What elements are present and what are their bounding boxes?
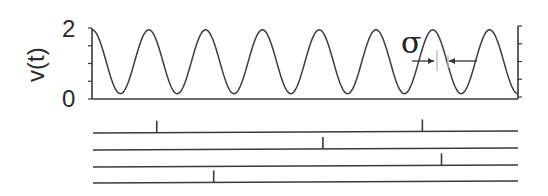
right-arrowhead-icon (449, 58, 455, 64)
y-tick-label-min: 0 (62, 85, 75, 112)
y-tick-label-max: 2 (62, 15, 75, 42)
spike-train (93, 153, 518, 167)
sinusoid-plot: 2 0 v(t) σ (22, 15, 522, 112)
y-axis-label: v(t) (22, 47, 49, 82)
chart: 2 0 v(t) σ (0, 0, 548, 196)
spike-train-baseline (93, 181, 518, 183)
spike-train-baseline (93, 148, 518, 150)
spike-trains (93, 119, 518, 183)
spike-train (93, 170, 518, 183)
spike-train (93, 137, 518, 150)
sigma-annotation: σ (401, 25, 477, 71)
spike-train (93, 119, 518, 133)
sigma-label: σ (401, 25, 421, 60)
spike-train-baseline (93, 165, 518, 167)
left-arrowhead-icon (428, 58, 434, 64)
